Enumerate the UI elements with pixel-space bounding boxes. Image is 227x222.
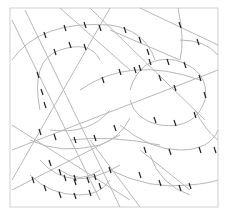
tick-mark (64, 175, 66, 181)
tick-mark (41, 89, 43, 95)
tick-mark (154, 117, 156, 123)
tick-mark (144, 147, 146, 153)
tick-mark (139, 172, 141, 178)
tick-mark (114, 125, 116, 131)
tick-mark (184, 62, 186, 68)
tick-mark (74, 193, 76, 199)
tick-mark (44, 102, 46, 108)
straight-line (110, 30, 180, 60)
straight-line (12, 8, 110, 180)
curve (130, 59, 206, 125)
curve (110, 170, 218, 186)
straight-line (12, 125, 130, 200)
tick-mark (89, 190, 91, 196)
curve (80, 70, 200, 90)
tick-mark (189, 183, 191, 189)
tick-mark (147, 49, 149, 55)
tick-mark (199, 147, 201, 153)
straight-line (140, 150, 190, 190)
tick-mark (49, 160, 51, 166)
line-drawing (0, 0, 227, 222)
tick-mark (99, 183, 101, 189)
curve (50, 110, 110, 131)
curve (150, 155, 190, 195)
diagram-canvas (0, 0, 227, 222)
tick-mark (54, 134, 56, 140)
tick-mark (214, 147, 216, 153)
tick-mark (124, 27, 126, 33)
tick-mark (64, 25, 66, 31)
curve (178, 8, 182, 60)
curve (120, 125, 218, 150)
straight-line (60, 8, 130, 70)
frame-border (10, 8, 218, 207)
